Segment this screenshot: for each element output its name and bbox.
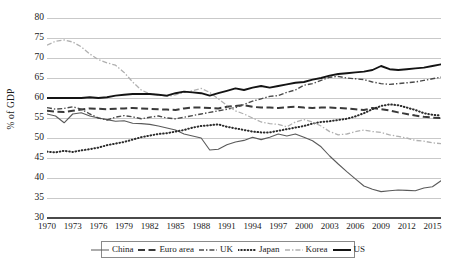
plot-area xyxy=(47,18,441,218)
legend-item-euro-area[interactable]: Euro area xyxy=(138,245,194,254)
legend-item-china[interactable]: China xyxy=(91,245,134,254)
series-line-euro-area xyxy=(47,105,441,118)
series-line-us xyxy=(47,64,441,98)
legend-label: UK xyxy=(220,245,233,254)
legend-item-uk[interactable]: UK xyxy=(199,245,233,254)
legend-label: Korea xyxy=(306,245,328,254)
y-tick-label: 70 xyxy=(4,53,44,63)
legend-swatch-dashed-icon xyxy=(138,246,156,254)
y-tick-label: 35 xyxy=(4,193,44,203)
legend-swatch-solid-thick-icon xyxy=(333,246,351,254)
y-tick-label: 50 xyxy=(4,133,44,143)
legend-label: Japan xyxy=(259,245,280,254)
series-line-china xyxy=(47,113,441,192)
series-lines xyxy=(47,18,441,218)
legend-label: US xyxy=(354,245,366,254)
legend-item-us[interactable]: US xyxy=(333,245,366,254)
y-tick-label: 75 xyxy=(4,33,44,43)
chart-legend: ChinaEuro areaUKJapanKoreaUS xyxy=(101,241,355,258)
legend-swatch-solid-thin-icon xyxy=(91,246,109,254)
y-tick-label: 65 xyxy=(4,73,44,83)
y-tick-label: 55 xyxy=(4,113,44,123)
series-line-japan xyxy=(47,104,441,152)
y-tick-label: 60 xyxy=(4,93,44,103)
legend-swatch-dashdot-light-icon xyxy=(285,246,303,254)
legend-swatch-dotted-icon xyxy=(238,246,256,254)
legend-item-korea[interactable]: Korea xyxy=(285,245,328,254)
legend-label: Euro area xyxy=(159,245,194,254)
x-axis-line xyxy=(47,217,441,219)
y-tick-label: 45 xyxy=(4,153,44,163)
legend-item-japan[interactable]: Japan xyxy=(238,245,280,254)
x-tick-label: 2015 xyxy=(415,221,449,232)
series-line-korea xyxy=(47,40,441,144)
legend-label: China xyxy=(112,245,134,254)
y-tick-label: 40 xyxy=(4,173,44,183)
chart-container: % of GDP 8075706560555045403530 19701973… xyxy=(0,0,456,267)
legend-swatch-dashdot-icon xyxy=(199,246,217,254)
y-tick-label: 80 xyxy=(4,13,44,23)
x-axis: 1970197319761979198219851988199119941997… xyxy=(47,221,441,235)
